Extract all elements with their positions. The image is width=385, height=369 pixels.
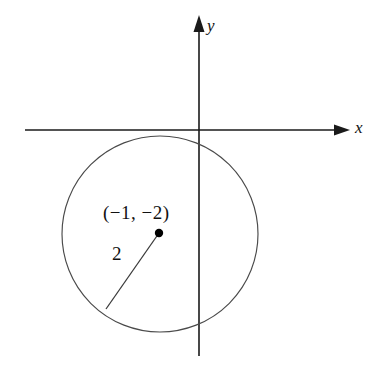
x-axis-label: x xyxy=(354,118,363,137)
center-point-label: (−1, −2) xyxy=(103,202,170,224)
x-axis-arrow-icon xyxy=(334,125,350,136)
center-point-dot xyxy=(155,229,163,237)
y-axis-label: y xyxy=(205,16,215,35)
radius-length-label: 2 xyxy=(112,243,122,264)
circle-geometry-figure: x y (−1, −2) 2 xyxy=(0,0,385,369)
coordinate-plane-svg: x y (−1, −2) 2 xyxy=(0,0,385,369)
y-axis-arrow-icon xyxy=(194,15,205,32)
